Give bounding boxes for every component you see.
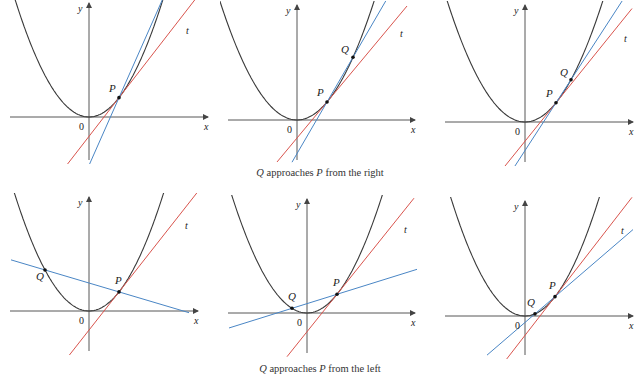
label-x-axis: x	[410, 124, 416, 135]
label-origin: 0	[515, 320, 520, 331]
panel-r3: PQtxy0	[445, 0, 634, 169]
parabola-curve	[447, 178, 605, 316]
label-origin: 0	[79, 121, 84, 132]
label-x-axis: x	[410, 317, 416, 328]
label-p: P	[548, 279, 556, 291]
label-t: t	[404, 224, 407, 235]
label-origin: 0	[79, 315, 84, 326]
label-t: t	[624, 33, 627, 44]
panel-l1: PQtxy0	[10, 175, 199, 355]
tangent-line	[287, 198, 414, 356]
secant-tangent-figure: PQtxy0PQtxy0PQtxy0PQtxy0PQtxy0PQtxy0	[0, 0, 640, 384]
label-q: Q	[527, 296, 535, 308]
caption-from-left: Q approaches P from the left	[0, 363, 640, 374]
secant-line	[513, 0, 625, 169]
label-x-axis: x	[628, 126, 634, 137]
parabola-curve	[11, 175, 169, 311]
point-p	[554, 101, 558, 105]
secant-line	[487, 230, 633, 356]
caption-tail: from the left	[326, 363, 381, 374]
label-y-axis: y	[77, 197, 83, 208]
parabola-curve	[447, 0, 605, 122]
secant-line	[89, 0, 167, 165]
point-q	[290, 307, 294, 311]
caption-mid: approaches	[264, 167, 316, 178]
label-t: t	[400, 28, 403, 39]
secant-line	[229, 269, 417, 328]
point-p	[553, 295, 557, 299]
point-q	[351, 55, 355, 59]
secant-line	[11, 260, 189, 313]
point-p	[117, 96, 121, 100]
parabola-curve	[229, 180, 387, 313]
label-t: t	[621, 225, 624, 236]
label-y-axis: y	[295, 199, 301, 210]
caption-from-right: Q approaches P from the right	[0, 167, 640, 178]
point-p	[117, 290, 121, 294]
label-q: Q	[36, 270, 44, 282]
label-origin: 0	[515, 126, 520, 137]
caption-mid: approaches	[267, 363, 319, 374]
label-q: Q	[341, 43, 349, 55]
panel-r1: PQtxy0	[9, 0, 209, 194]
point-q	[533, 312, 537, 316]
caption-q: Q	[259, 363, 267, 374]
label-origin: 0	[287, 124, 292, 135]
tangent-line	[503, 197, 632, 363]
label-t: t	[186, 25, 189, 36]
caption-tail: from the right	[323, 167, 384, 178]
label-y-axis: y	[77, 3, 83, 14]
label-y-axis: y	[513, 5, 519, 16]
parabola-curve	[9, 0, 189, 117]
label-q: Q	[288, 290, 296, 302]
panel-l3: PQtxy0	[445, 178, 634, 363]
point-q	[569, 78, 573, 82]
point-p	[335, 292, 339, 296]
label-x-axis: x	[203, 121, 209, 132]
label-p: P	[545, 87, 553, 99]
parabola-curve	[219, 0, 377, 120]
tangent-line	[505, 9, 632, 166]
label-p: P	[316, 86, 324, 98]
label-x-axis: x	[193, 315, 199, 326]
label-p: P	[108, 82, 116, 94]
panel-l2: PQtxy0	[228, 180, 417, 357]
label-origin: 0	[297, 317, 302, 328]
caption-q: Q	[256, 167, 264, 178]
point-p	[325, 100, 329, 104]
tangent-line	[277, 6, 407, 162]
label-t: t	[185, 220, 188, 231]
tangent-line	[69, 193, 197, 356]
label-p: P	[114, 274, 122, 286]
label-x-axis: x	[628, 320, 634, 331]
label-p: P	[332, 276, 340, 288]
label-q: Q	[560, 66, 568, 78]
label-y-axis: y	[285, 5, 291, 16]
label-y-axis: y	[513, 201, 519, 212]
panel-r2: PQtxy0	[219, 0, 416, 162]
